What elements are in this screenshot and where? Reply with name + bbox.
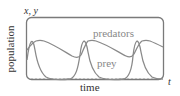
prey-curve [27,41,163,80]
x-variable-label: t [168,77,171,87]
y-variables-label: x, y [24,6,38,16]
predators-series-label: predators [93,28,134,39]
y-axis-label: population [5,14,16,84]
x-axis-label: time [80,82,100,93]
predators-curve [27,40,163,57]
prey-series-label: prey [97,58,117,69]
